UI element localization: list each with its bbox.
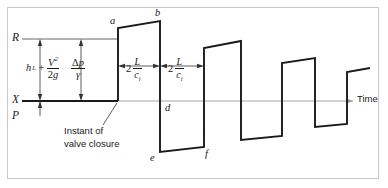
point-label-d: d: [165, 103, 170, 114]
period-1-denominator: ci: [133, 68, 141, 82]
p-level-tick-arrow: [38, 101, 42, 108]
head-loss-arrow-up: [38, 39, 42, 46]
delta-p-fraction: Δp γ: [71, 57, 85, 81]
velocity-head-exponent: 2: [55, 55, 59, 63]
pressure-trace: [118, 21, 370, 152]
axis-label-steady-line: X: [12, 94, 19, 106]
head-loss-arrow-down: [38, 94, 42, 101]
period-2-denominator: ci: [175, 68, 183, 82]
point-label-f: f: [205, 149, 208, 160]
head-loss-plus: +: [38, 63, 44, 74]
period-2-arrow-left: [160, 64, 167, 68]
delta-p-arrow-up: [79, 39, 83, 46]
period-2-numerator: L: [175, 57, 183, 68]
velocity-head-fraction: V2 2g: [47, 56, 60, 81]
velocity-head-denominator: 2g: [47, 68, 60, 81]
head-loss-h: h: [26, 63, 31, 74]
valve-closure-caption-line1: Instant of: [64, 126, 103, 136]
valve-closure-caption-line2: valve closure: [64, 139, 119, 149]
point-label-a: a: [110, 16, 115, 27]
period-2-expression: 2 L ci: [168, 57, 184, 82]
period-1-c-subscript: i: [139, 75, 141, 82]
axis-label-pressure: P: [12, 110, 19, 122]
velocity-head-numerator: V2: [47, 56, 60, 68]
delta-p-arrow-down: [79, 94, 83, 101]
period-1-arrow-right: [153, 64, 160, 68]
axis-label-time: Time: [357, 94, 378, 104]
period-1-arrow-left: [118, 64, 125, 68]
valve-closure-leader: [103, 103, 117, 125]
head-loss-expression: hL + V2 2g: [26, 56, 59, 81]
head-loss-h-subscript: L: [32, 65, 36, 72]
velocity-head-g: g: [53, 69, 58, 80]
axis-label-reservoir: R: [12, 32, 19, 44]
period-1-numerator: L: [133, 57, 141, 68]
water-hammer-figure: R X P Time hL + V2 2g Δp γ 2 L ci 2 L ci: [0, 0, 388, 188]
period-1-fraction: L ci: [133, 57, 141, 82]
delta-symbol: Δ: [72, 57, 79, 68]
period-2-c-subscript: i: [181, 75, 183, 82]
delta-p-expression: Δp γ: [71, 57, 85, 81]
period-2-arrow-right: [197, 64, 204, 68]
delta-p-p: p: [79, 57, 84, 68]
figure-drawing: [0, 0, 388, 188]
delta-p-denominator: γ: [71, 68, 85, 81]
period-2-coefficient: 2: [168, 64, 173, 75]
period-1-expression: 2 L ci: [126, 57, 142, 82]
point-label-e: e: [150, 153, 155, 164]
point-label-b: b: [155, 8, 160, 19]
delta-p-numerator: Δp: [71, 57, 85, 68]
period-1-coefficient: 2: [126, 64, 131, 75]
period-2-fraction: L ci: [175, 57, 183, 82]
